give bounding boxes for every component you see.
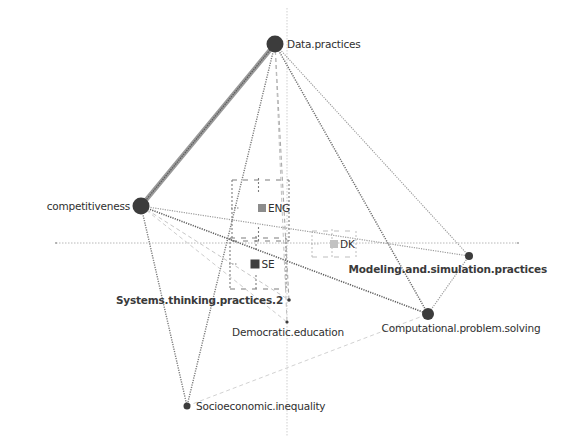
mfa-biplot: ENGSEDK Data.practicescompetitivenessMod…	[0, 0, 575, 444]
node-label-demo: Democratic.education	[232, 326, 344, 338]
node-labels: Data.practicescompetitivenessModeling.an…	[47, 38, 547, 412]
node-sys	[287, 298, 291, 302]
edge-comp-model	[141, 206, 469, 256]
axis-endpoint	[517, 242, 519, 244]
node-socio	[184, 403, 191, 410]
edge-comp-socio	[141, 206, 187, 406]
group-label-se: SE	[262, 258, 275, 270]
group-marker-eng	[258, 204, 266, 212]
axes	[55, 8, 519, 436]
plot-canvas: ENGSEDK Data.practicescompetitivenessMod…	[0, 0, 575, 444]
group-marker-se	[251, 260, 260, 269]
node-label-socio: Socioeconomic.inequality	[196, 400, 325, 412]
group-points: ENGSEDK	[251, 202, 356, 270]
node-comp	[133, 198, 150, 215]
node-label-model: Modeling.and.simulation.practices	[349, 263, 547, 275]
edge-texture	[141, 44, 275, 206]
node-cps	[422, 308, 434, 320]
node-label-data: Data.practices	[287, 38, 361, 50]
edges	[141, 44, 469, 406]
edge-comp-sys	[141, 206, 289, 300]
edge-data-model	[275, 44, 469, 256]
axis-endpoint	[55, 242, 57, 244]
node-demo	[285, 320, 288, 323]
node-model	[465, 252, 473, 260]
node-data	[267, 36, 284, 53]
node-label-sys: Systems.thinking.practices.2	[116, 294, 283, 306]
node-label-cps: Computational.problem.solving	[382, 322, 541, 334]
group-label-dk: DK	[340, 238, 356, 250]
group-marker-dk	[330, 240, 338, 248]
edge-data-demo	[275, 44, 287, 322]
node-label-comp: competitiveness	[47, 200, 130, 212]
group-label-eng: ENG	[268, 202, 290, 214]
